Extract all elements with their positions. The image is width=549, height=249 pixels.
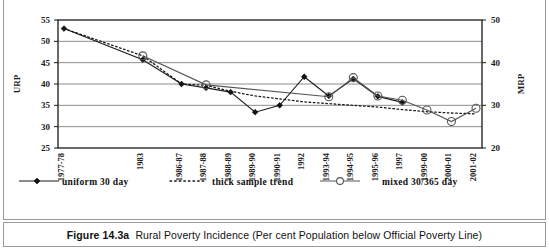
- figure-caption: Figure 14.3a Rural Poverty Incidence (Pe…: [67, 229, 482, 241]
- x-axis-category-label: 1993-94: [321, 152, 331, 181]
- x-axis-category-label: 1994-95: [345, 153, 355, 181]
- legend-item-label: uniform 30 day: [62, 177, 128, 187]
- x-axis-category-label: 1986-87: [174, 152, 184, 181]
- legend-item-label: mixed 30/365 day: [382, 177, 458, 187]
- x-axis-category-label: 1992: [296, 153, 306, 170]
- y-axis-tick-label: 55: [41, 15, 51, 25]
- y2-axis-tick-label: 50: [491, 15, 501, 25]
- chart-panel: 25303540455055 20304050 1977-7819831986-…: [3, 0, 546, 220]
- rural-poverty-line-chart: 25303540455055 20304050 1977-7819831986-…: [4, 0, 547, 220]
- y-axis-left-ticks: 25303540455055: [41, 15, 58, 153]
- figure-container: 25303540455055 20304050 1977-7819831986-…: [0, 0, 549, 249]
- legend-item-label: thick sample trend: [212, 177, 294, 187]
- legend-marker-swatch: [337, 178, 344, 185]
- y-axis-title: URP: [12, 74, 22, 93]
- data-series-group: [61, 26, 480, 126]
- y-axis-tick-label: 25: [41, 143, 51, 153]
- legend-item: thick sample trend: [170, 177, 294, 187]
- y-axis-tick-label: 35: [41, 100, 51, 110]
- x-axis-category-label: 1983: [135, 153, 145, 170]
- figure-caption-label: Figure 14.3a: [67, 229, 129, 241]
- gridlines-group: [58, 41, 482, 126]
- figure-caption-description: Rural Poverty Incidence (Per cent Popula…: [135, 229, 482, 241]
- y2-axis-tick-label: 40: [491, 58, 501, 68]
- y2-axis-title: MRP: [516, 73, 526, 94]
- x-axis-category-label: 1995-96: [370, 153, 380, 181]
- y2-axis-tick-label: 30: [491, 100, 501, 110]
- legend-marker-swatch: [34, 178, 40, 184]
- y2-axis-tick-label: 20: [491, 143, 501, 153]
- legend-item: mixed 30/365 day: [320, 177, 458, 187]
- y-axis-tick-label: 30: [41, 122, 51, 132]
- x-axis-category-label: 1987-88: [198, 153, 208, 181]
- chart-legend: uniform 30 daythick sample trendmixed 30…: [19, 177, 458, 187]
- y-axis-tick-label: 50: [41, 36, 51, 46]
- figure-caption-bar: Figure 14.3a Rural Poverty Incidence (Pe…: [3, 222, 546, 247]
- y-axis-right-ticks: 20304050: [482, 15, 501, 153]
- x-axis-category-label: 1997: [394, 152, 404, 170]
- y-axis-tick-label: 40: [41, 79, 51, 89]
- y-axis-tick-label: 45: [41, 58, 51, 68]
- x-axis-category-label: 2001-02: [468, 153, 478, 181]
- legend-item: uniform 30 day: [19, 177, 128, 187]
